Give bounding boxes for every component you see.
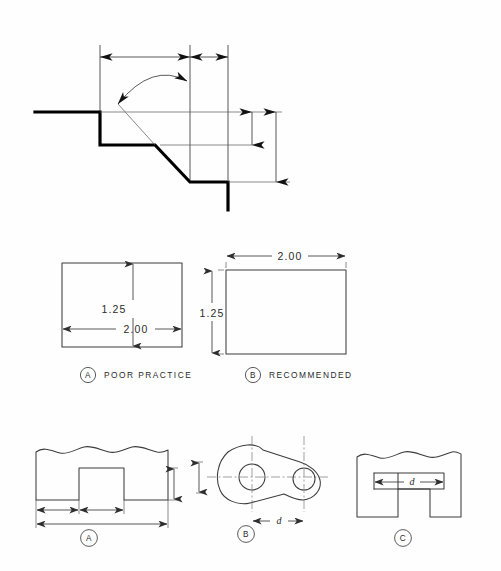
- rect-a-dim-width-value: 2.00: [124, 323, 149, 335]
- bottom-a-bubble-letter: A: [86, 534, 92, 543]
- drawing-sheet: 1.25 2.00 A POOR PRACTICE 2.00: [0, 0, 501, 571]
- bottom-c-bubble-letter: C: [400, 534, 406, 543]
- bottom-figure-b-group: d B: [196, 436, 330, 542]
- rect-a-dim-height-value: 1.25: [102, 303, 127, 315]
- technical-drawing-canvas: 1.25 2.00 A POOR PRACTICE 2.00: [0, 0, 501, 571]
- bottom-b-dim-centers-value: d: [277, 515, 283, 526]
- rect-b-bubble-letter: B: [250, 371, 256, 380]
- rect-b-outline: [226, 270, 346, 354]
- middle-figure-a-group: 1.25 2.00 A POOR PRACTICE: [62, 263, 192, 383]
- bottom-b-bubble-letter: B: [243, 530, 249, 539]
- top-chamfer-leader: [118, 104, 155, 145]
- bottom-a-outline: [36, 447, 168, 500]
- rect-b-caption: RECOMMENDED: [269, 370, 352, 380]
- top-angle-arc-dimension: [118, 75, 187, 104]
- top-object-profile: [35, 112, 228, 210]
- rect-a-caption: POOR PRACTICE: [104, 370, 192, 380]
- bottom-figure-a-group: A: [36, 447, 178, 547]
- middle-figure-b-group: 2.00 1.25 B RECOMMENDED: [200, 250, 353, 383]
- bottom-figure-c-group: d C: [357, 452, 461, 547]
- bottom-b-outline: [217, 445, 320, 504]
- top-figure-group: [35, 45, 290, 210]
- rect-b-dim-height-value: 1.25: [200, 307, 225, 319]
- bottom-c-dim-value: d: [410, 476, 416, 487]
- rect-b-dim-width-value: 2.00: [278, 250, 303, 262]
- rect-a-bubble-letter: A: [85, 371, 91, 380]
